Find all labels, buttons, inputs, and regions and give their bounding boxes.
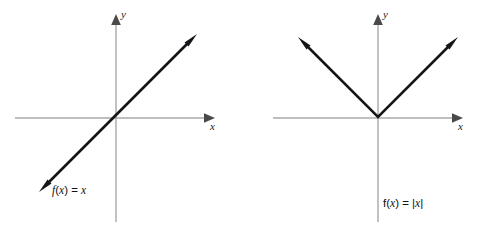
x-axis-right <box>273 113 463 123</box>
function-label-right: f(x) = |x| <box>383 197 423 209</box>
x-axis-label-left: x <box>209 120 215 132</box>
curve-identity <box>39 34 197 192</box>
function-label-left: f(x) = x <box>52 184 87 197</box>
panel-absolute-value-function: x y f(x) = |x| f(x) = |x| <box>245 0 491 229</box>
y-axis-label-right: y <box>382 8 388 20</box>
function-label-left-eq: ) = <box>64 184 81 196</box>
y-axis-arrowhead-icon <box>111 14 121 25</box>
y-axis-arrowhead-icon <box>373 14 383 25</box>
x-axis-label-right: x <box>457 120 463 132</box>
curve-line <box>46 41 190 185</box>
function-label-left-arg: x <box>80 184 87 196</box>
function-label-right-eq: ) = | <box>395 197 415 209</box>
function-label-right-tail: | <box>420 197 423 209</box>
math-figure-two-panels: x y f(x) = x f(x) = x <box>0 0 491 229</box>
panel-identity-function: x y f(x) = x f(x) = x <box>0 0 245 229</box>
y-axis-label-left: y <box>120 8 126 20</box>
